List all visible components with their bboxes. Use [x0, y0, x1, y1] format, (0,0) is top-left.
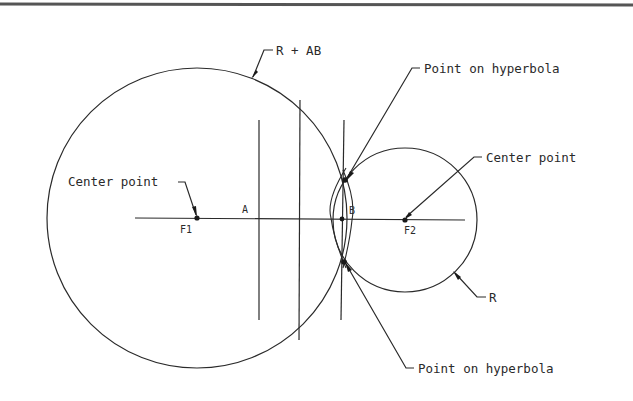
- leader-arrow-left-center: [192, 206, 197, 217]
- label-point-on-hyperbola-bottom: Point on hyperbola: [418, 361, 553, 376]
- leader-arrow-r-plus-ab: [251, 70, 258, 79]
- hyperbola-construction-diagram: R + AB Point on hyperbola Center point C…: [0, 0, 633, 401]
- leader-top-point: [347, 68, 420, 178]
- label-f1: F1: [180, 224, 192, 235]
- leader-right-center: [406, 157, 482, 217]
- leader-arrow-top-point: [346, 171, 354, 181]
- vertical-line-mid: [299, 100, 300, 340]
- label-f2: F2: [404, 225, 416, 236]
- focus-1-point: [194, 215, 199, 220]
- top-rule: [0, 4, 633, 5]
- label-center-point-right: Center point: [486, 150, 576, 165]
- focus-2-point: [402, 217, 407, 222]
- label-r-plus-ab: R + AB: [276, 43, 321, 58]
- leader-left-center: [178, 182, 196, 215]
- point-b: [340, 217, 345, 222]
- label-b: B: [349, 205, 355, 216]
- label-r: R: [489, 290, 497, 305]
- label-a: A: [242, 204, 248, 215]
- label-point-on-hyperbola-top: Point on hyperbola: [424, 61, 559, 76]
- label-center-point-left: Center point: [68, 174, 158, 189]
- leader-bottom-point: [346, 264, 414, 368]
